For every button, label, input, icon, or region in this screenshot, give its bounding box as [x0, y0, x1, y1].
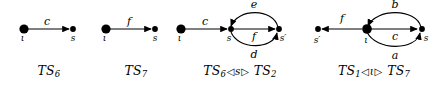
node-s-prime [276, 26, 282, 32]
node-label-s: s [153, 33, 158, 43]
edge-label-f: f [339, 12, 346, 25]
caption-left-base: TS [203, 63, 220, 78]
node-label-iota: ι [103, 33, 107, 43]
node-label-s: s [71, 33, 76, 43]
panel-ts6: ι s c TS6 [0, 0, 98, 94]
caption-ts1-iota-ts7: TS1◁ι▷ TS7 [306, 62, 442, 83]
node-s [152, 26, 158, 32]
node-label-s: s [424, 33, 429, 43]
node-label-iota: ι [178, 33, 182, 43]
panel-ts7: ι s f TS7 [98, 0, 174, 94]
graph-ts6: ι s c [0, 0, 98, 62]
graph-ts1-iota-ts7: s' (arrow points LEFT) --> s′ ι s f b c … [306, 0, 442, 62]
caption-right-subscript: 2 [271, 69, 277, 79]
caption-ts6: TS6 [0, 62, 98, 83]
edge-label-d: d [250, 48, 257, 61]
graph-ts6-s-ts2: s --> ι s s′ c e f d [174, 0, 306, 62]
node-s [419, 26, 425, 32]
node-label-iota: ι [21, 33, 25, 43]
edge-label-c: c [44, 15, 50, 28]
caption-base: TS [125, 63, 142, 78]
caption-base: TS [38, 63, 55, 78]
edge-label-f: f [251, 30, 258, 43]
caption-right-subscript: 7 [404, 69, 410, 79]
node-label-s: s [227, 33, 232, 43]
caption-subscript: 6 [55, 69, 61, 79]
node-s [228, 26, 234, 32]
caption-ts6-s-ts2: TS6◁s▷ TS2 [174, 62, 306, 83]
edge-label-e: e [251, 0, 258, 11]
edge-label-c: c [392, 30, 398, 43]
caption-left-base: TS [338, 63, 355, 78]
caption-argument: s [235, 65, 241, 77]
edge-label-b: b [391, 0, 398, 11]
graph-ts7: ι s f [98, 0, 174, 62]
node-label-s-prime: s′ [314, 35, 321, 45]
caption-op-right-icon: ▷ [374, 66, 383, 77]
caption-op-right-icon: ▷ [241, 66, 250, 77]
node-label-iota: ι [364, 35, 368, 45]
caption-op-left-icon: ◁ [226, 66, 235, 77]
caption-subscript: 7 [142, 69, 148, 79]
caption-right-base: TS [254, 63, 271, 78]
node-s-prime [315, 26, 321, 32]
caption-op-left-icon: ◁ [361, 66, 370, 77]
node-s [70, 26, 76, 32]
transition-systems-figure: ι s c TS6 ι s f TS7 [0, 0, 442, 94]
caption-right-base: TS [387, 63, 404, 78]
node-iota [362, 24, 372, 34]
edge-label-c: c [202, 15, 208, 28]
caption-left-subscript: 1 [355, 69, 361, 79]
edge-b-arc [368, 13, 421, 27]
caption-ts7: TS7 [98, 62, 174, 83]
panel-ts6-s-ts2: s --> ι s s′ c e f d TS6◁s▷ TS2 [174, 0, 306, 94]
edge-e-arc [231, 13, 278, 27]
edge-label-a: a [392, 49, 399, 62]
edge-label-f: f [126, 15, 133, 28]
panel-ts1-iota-ts7: s' (arrow points LEFT) --> s′ ι s f b c … [306, 0, 442, 94]
node-label-s-prime: s′ [280, 33, 287, 43]
